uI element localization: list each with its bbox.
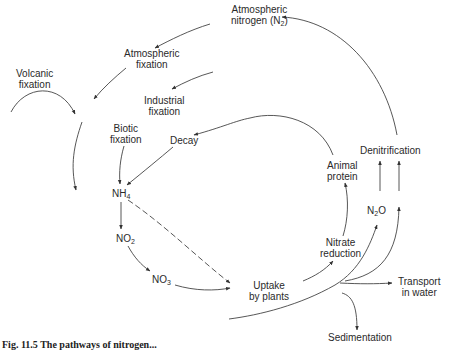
arrow-denitrification-to-atmospheric-nitrogen [282, 17, 397, 135]
node-volcanic-fixation: Volcanic fixation [16, 68, 53, 90]
node-transport-in-water: Transport in water [398, 276, 440, 298]
nitrogen-cycle-diagram [0, 0, 454, 350]
node-n2o: N2O [367, 205, 386, 216]
arrow-flow-to-transport [340, 283, 392, 284]
node-nh4: NH4 [112, 188, 130, 199]
arrow-to-industrial-fixation [172, 72, 213, 89]
node-denitrification: Denitrification [360, 145, 421, 156]
arrow-no3-to-uptake [175, 285, 230, 290]
node-nitrate-reduction: Nitrate reduction [320, 237, 361, 259]
arrow-flow-to-sedimentation [342, 293, 357, 330]
arrow-nitrate-reduction-to-animal-protein [343, 183, 347, 236]
arrow-biotic-fixation-to-nh4 [120, 146, 124, 184]
arrow-uptake-to-nitrate-reduction [303, 261, 333, 281]
node-industrial-fixation: Industrial fixation [144, 95, 185, 117]
arrow-pool-down [73, 122, 82, 190]
node-atmospheric-nitrogen: Atmospheric nitrogen (N2) [231, 4, 288, 26]
arrow-volcanic-fixation [11, 91, 75, 114]
arrow-no2-to-no3 [128, 246, 150, 271]
node-atmospheric-fixation: Atmospheric fixation [124, 48, 180, 70]
node-no3: NO3 [152, 274, 171, 285]
node-no2: NO2 [116, 233, 135, 244]
node-uptake-by-plants: Uptake by plants [249, 280, 289, 302]
node-decay: Decay [170, 135, 198, 146]
arrow-animal-protein-to-decay [194, 115, 333, 155]
node-biotic-fixation: Biotic fixation [110, 123, 142, 145]
node-animal-protein: Animal protein [327, 160, 358, 182]
arrow-atmospheric-fixation-to-pool [94, 68, 126, 99]
arrow-decay-to-nh4 [127, 147, 173, 185]
node-sedimentation: Sedimentation [328, 332, 392, 343]
arrow-atmospheric-nitrogen-to-atmospheric-fixation [155, 24, 210, 48]
figure-caption: Fig. 11.5 The pathways of nitrogen... [2, 339, 157, 350]
arrow-nh4-to-uptake-dashed [128, 200, 230, 283]
